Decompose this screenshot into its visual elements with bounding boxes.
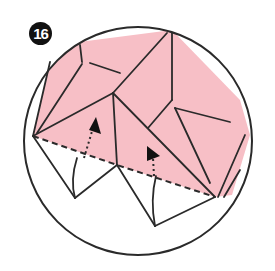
step-number-badge: 16 bbox=[29, 22, 52, 45]
